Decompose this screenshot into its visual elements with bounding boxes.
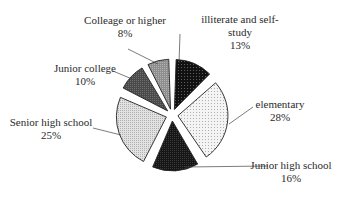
label-college: Colleage or higher 8%: [80, 14, 170, 40]
leader-line-senior-high: [93, 128, 121, 135]
leader-line-college: [128, 49, 158, 64]
label-text: elementary: [250, 98, 310, 111]
label-percent: 16%: [246, 172, 336, 185]
label-elementary: elementary 28%: [250, 98, 310, 124]
label-text: Colleage or higher: [80, 14, 170, 27]
label-junior-high: Junior high school 16%: [246, 159, 336, 185]
label-text: Junior college: [50, 62, 120, 75]
label-percent: 25%: [6, 129, 96, 142]
label-text: study: [200, 26, 280, 39]
label-percent: 10%: [50, 75, 120, 88]
label-text: illiterate and self-: [200, 13, 280, 26]
label-illiterate: illiterate and self- study 13%: [200, 13, 280, 52]
label-text: Senior high school: [6, 116, 96, 129]
label-percent: 13%: [200, 39, 280, 52]
label-junior-college: Junior college 10%: [50, 62, 120, 88]
label-percent: 28%: [250, 111, 310, 124]
label-senior-high: Senior high school 25%: [6, 116, 96, 142]
label-text: Junior high school: [246, 159, 336, 172]
pie-slices: [116, 59, 228, 171]
leader-line-illiterate: [179, 34, 180, 63]
label-percent: 8%: [80, 27, 170, 40]
